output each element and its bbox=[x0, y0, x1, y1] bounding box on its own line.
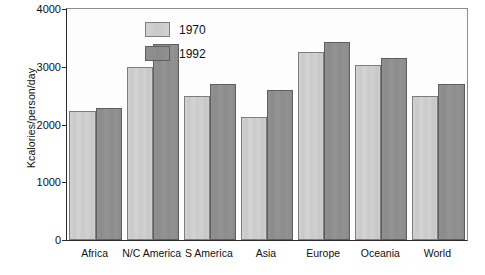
y-tick-label: 3000 bbox=[37, 61, 61, 73]
plot-area: 01000200030004000 1970 1992 bbox=[66, 8, 468, 241]
legend: 1970 1992 bbox=[145, 21, 250, 69]
x-axis-label: World bbox=[424, 247, 451, 259]
bar-1992 bbox=[324, 42, 350, 240]
x-axis-label: Africa bbox=[81, 247, 108, 259]
legend-label-1970: 1970 bbox=[179, 23, 206, 37]
legend-label-1992: 1992 bbox=[179, 47, 206, 61]
y-axis-title: Kcalories/person/day bbox=[25, 18, 37, 218]
legend-item-1970: 1970 bbox=[145, 21, 250, 38]
bar-1992 bbox=[267, 90, 293, 240]
bar-chart: Kcalories/person/day 01000200030004000 1… bbox=[0, 0, 485, 275]
x-axis-label: N/C America bbox=[122, 247, 181, 259]
bar-group bbox=[412, 9, 464, 240]
bar-1970 bbox=[298, 52, 324, 240]
bar-1992 bbox=[381, 58, 407, 240]
bar-1992 bbox=[210, 84, 236, 240]
bar-group bbox=[355, 9, 407, 240]
x-axis-label: Europe bbox=[306, 247, 340, 259]
bar-1992 bbox=[96, 108, 122, 240]
bar-group bbox=[298, 9, 350, 240]
y-tick-label: 1000 bbox=[37, 176, 61, 188]
x-axis-label: Oceania bbox=[361, 247, 400, 259]
bar-1992 bbox=[153, 44, 179, 240]
bar-group bbox=[69, 9, 121, 240]
legend-swatch-icon-1992 bbox=[145, 46, 170, 61]
bar-1970 bbox=[69, 111, 95, 240]
y-tick-mark bbox=[62, 240, 67, 241]
y-tick-label: 0 bbox=[55, 234, 61, 246]
y-tick-label: 4000 bbox=[37, 3, 61, 15]
legend-item-1992: 1992 bbox=[145, 45, 250, 62]
bar-1970 bbox=[412, 96, 438, 240]
bar-1970 bbox=[355, 65, 381, 240]
x-axis-label: Asia bbox=[256, 247, 276, 259]
bar-1970 bbox=[184, 96, 210, 240]
bars-layer bbox=[67, 9, 467, 240]
legend-swatch-icon-1970 bbox=[145, 22, 170, 37]
bar-1970 bbox=[127, 67, 153, 240]
x-axis-label: S America bbox=[185, 247, 233, 259]
bar-1970 bbox=[241, 117, 267, 240]
y-tick-label: 2000 bbox=[37, 119, 61, 131]
bar-1992 bbox=[438, 84, 464, 241]
